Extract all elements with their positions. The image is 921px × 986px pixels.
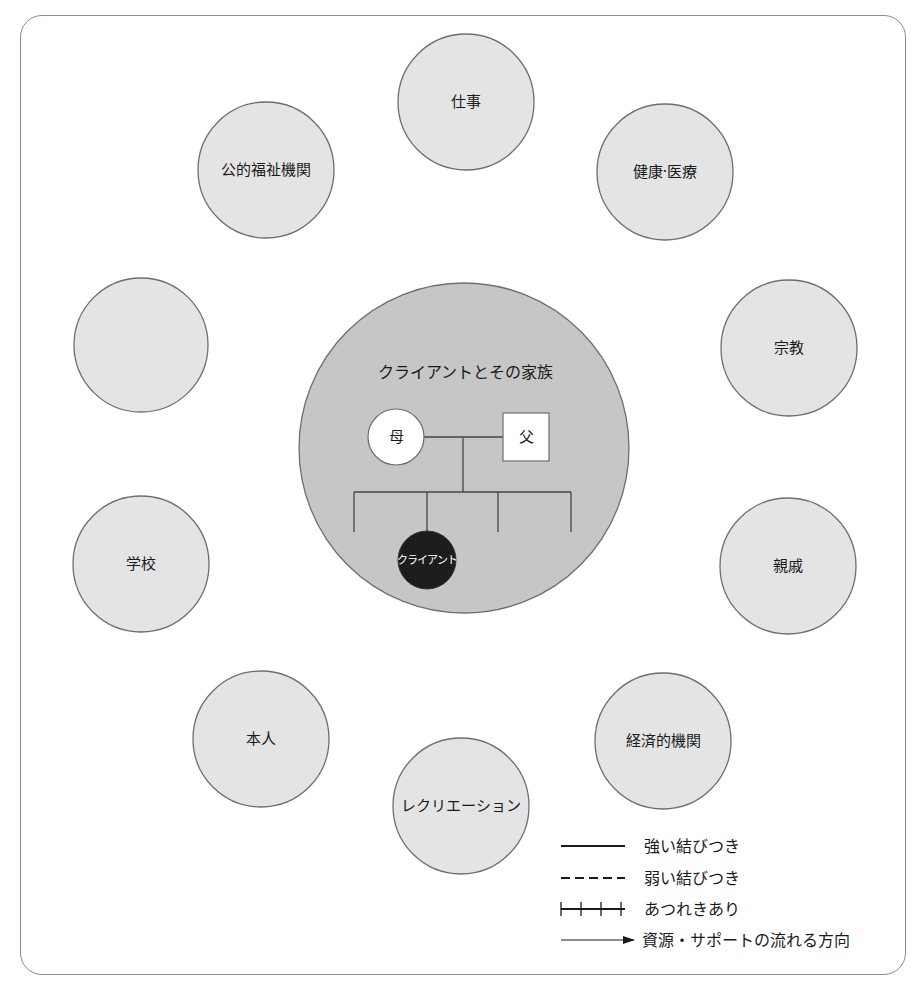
legend-label-weak: 弱い結びつき bbox=[644, 869, 740, 888]
node-health: 健康·医療 bbox=[597, 104, 733, 240]
node-label-self: 本人 bbox=[246, 730, 276, 748]
node-label-recreation: レクリエーション bbox=[401, 797, 521, 815]
mother-node: 母 bbox=[368, 409, 424, 465]
node-label-health: 健康·医療 bbox=[633, 163, 698, 181]
legend-item-weak: 弱い結びつき bbox=[561, 869, 740, 888]
client-label: クライアント bbox=[397, 554, 457, 567]
node-label-economic: 経済的機関 bbox=[626, 732, 701, 750]
mother-label: 母 bbox=[389, 428, 404, 446]
node-label-religion: 宗教 bbox=[774, 339, 804, 357]
node-label-school: 学校 bbox=[126, 555, 156, 573]
legend-item-strong: 強い結びつき bbox=[561, 837, 740, 856]
legend-label-flow: 資源・サポートの流れる方向 bbox=[642, 931, 850, 950]
node-label-work: 仕事 bbox=[451, 93, 481, 111]
center-title: クライアントとその家族 bbox=[378, 363, 553, 382]
legend-label-strong: 強い結びつき bbox=[644, 837, 740, 856]
legend-label-conflict: あつれきあり bbox=[644, 900, 740, 919]
ticked-line-icon bbox=[561, 902, 625, 916]
node-economic: 経済的機関 bbox=[595, 673, 731, 809]
legend: 強い結びつき 弱い結びつき あつれきあり 資源・サポートの流れる方向 bbox=[561, 837, 850, 950]
father-node: 父 bbox=[503, 413, 549, 461]
node-relatives: 親戚 bbox=[720, 498, 856, 634]
ecomap-diagram: 仕事 健康·医療 宗教 親戚 経済的機関 レクリエーション 本人 学校 公的福祉… bbox=[0, 0, 921, 986]
center-family-node: クライアントとその家族 母 父 クライアント bbox=[299, 283, 629, 613]
node-label-relatives: 親戚 bbox=[773, 557, 803, 575]
legend-item-flow: 資源・サポートの流れる方向 bbox=[561, 931, 850, 950]
client-node: クライアント bbox=[397, 531, 457, 589]
node-welfare: 公的福祉機関 bbox=[198, 102, 334, 238]
legend-item-conflict: あつれきあり bbox=[561, 900, 740, 919]
father-label: 父 bbox=[519, 428, 534, 446]
node-religion: 宗教 bbox=[721, 280, 857, 416]
node-label-welfare: 公的福祉機関 bbox=[221, 161, 311, 179]
node-school: 学校 bbox=[73, 496, 209, 632]
node-work: 仕事 bbox=[398, 34, 534, 170]
node-recreation: レクリエーション bbox=[393, 738, 529, 874]
node-empty bbox=[74, 278, 208, 412]
node-self: 本人 bbox=[193, 671, 329, 807]
